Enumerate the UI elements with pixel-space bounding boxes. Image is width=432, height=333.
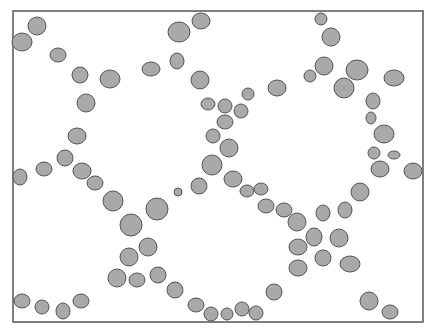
particle [87,176,103,190]
particle [315,13,327,25]
particle [220,139,238,157]
particle [28,17,46,35]
particle [234,104,248,118]
particle [316,205,330,221]
particle [315,57,333,75]
particle [120,214,142,236]
particle [304,70,316,82]
particle [139,238,157,256]
particle [56,303,70,319]
particle [206,129,220,143]
particle [103,191,123,211]
particle [174,188,182,196]
particle [35,300,49,314]
particle [366,93,380,109]
particle [240,185,254,197]
particle [142,62,160,76]
particle [72,67,88,83]
particle [204,307,218,321]
particle [129,273,145,287]
particle [268,80,286,96]
particle [146,198,168,220]
particle [315,250,331,266]
particle [242,88,254,100]
particle [68,128,86,144]
particle [366,112,376,124]
particle [77,94,95,112]
particle [168,22,190,42]
particle [50,48,66,62]
particle [201,98,215,110]
particle [12,33,32,51]
particle [322,28,340,46]
particle [334,78,354,98]
particle [258,199,274,213]
particle [384,70,404,86]
particle [191,178,207,194]
particle [36,162,52,176]
particle [360,292,378,310]
particle [374,125,394,143]
particle [276,203,292,217]
particle [254,183,268,195]
particle [224,171,242,187]
particle [202,155,222,175]
particle [192,13,210,29]
particle [382,305,398,319]
particle [306,228,322,246]
particle [330,229,348,247]
particle [249,306,263,320]
particle [351,183,369,201]
particle [191,71,209,89]
particle [371,161,389,177]
particle [221,308,233,320]
particle [404,163,422,179]
particle-diagram [0,0,432,333]
particle [57,150,73,166]
particle [288,213,306,231]
particle [73,163,91,179]
particle [217,115,233,129]
particle [340,256,360,272]
particle [100,70,120,88]
particle [289,239,307,255]
particle [188,298,204,312]
particle [218,99,232,113]
particle [108,269,126,287]
particle [346,60,368,80]
particle [73,294,89,308]
particle [120,248,138,266]
particle [167,282,183,298]
particle [338,202,352,218]
particle-group [12,13,422,321]
particle [289,260,307,276]
particle [14,294,30,308]
particle [235,302,249,316]
particle [150,267,166,283]
particle [388,151,400,159]
particle [170,53,184,69]
particle [368,147,380,159]
particle [266,284,282,300]
particle [13,169,27,185]
